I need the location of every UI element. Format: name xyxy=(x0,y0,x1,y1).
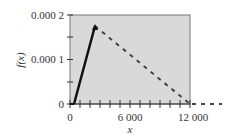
x-tick-labels: 0 6 000 12 000 xyxy=(67,111,208,123)
y-tick-label: 0.000 1 xyxy=(31,53,64,65)
x-tick-label: 12 000 xyxy=(178,111,209,123)
x-axis-label: x xyxy=(127,123,133,135)
y-tick-label: 0 xyxy=(59,98,65,110)
x-tick-label: 0 xyxy=(67,111,73,123)
plot-area xyxy=(70,15,190,104)
x-tick-label: 6 000 xyxy=(118,111,143,123)
y-tick-label: 0.000 2 xyxy=(31,9,64,21)
y-axis-label: f(x) xyxy=(14,52,27,68)
y-tick-labels: 0.000 2 0.000 1 0 xyxy=(31,9,65,110)
chart: 0.000 2 0.000 1 0 0 6 000 12 000 x f(x) xyxy=(0,0,229,139)
